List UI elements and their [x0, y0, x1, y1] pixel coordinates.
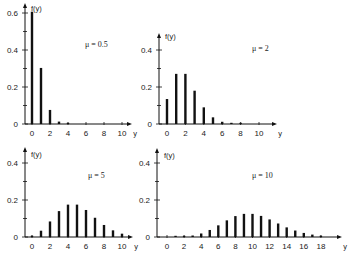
x-tick-label: 8: [233, 242, 238, 251]
y-tick-label: 0.6: [7, 9, 19, 18]
x-tick-label: 0: [30, 129, 35, 138]
y-tick-label: 0.2: [141, 83, 153, 92]
x-tick-label: 10: [255, 129, 264, 138]
y-axis-arrow-icon: [157, 33, 161, 38]
y-axis-arrow-icon: [155, 148, 159, 153]
x-tick-label: 0: [165, 129, 170, 138]
x-tick-label: 2: [48, 129, 53, 138]
y-tick-label: 0.2: [7, 196, 19, 205]
y-axis-label: f(y): [31, 150, 42, 159]
probability-bar: [175, 74, 177, 124]
x-tick-label: 2: [182, 242, 187, 251]
probability-bar: [251, 214, 253, 237]
probability-bar: [49, 110, 51, 124]
y-tick-label: 0.2: [7, 83, 19, 92]
probability-bar: [286, 227, 288, 237]
probability-bar: [40, 68, 42, 124]
x-tick-label: 10: [248, 242, 257, 251]
x-tick-label: 8: [102, 242, 107, 251]
probability-bar: [174, 236, 176, 237]
probability-bar: [166, 99, 168, 124]
x-tick-label: 0: [165, 242, 170, 251]
x-tick-label: 10: [118, 129, 127, 138]
x-tick-label: 8: [102, 129, 107, 138]
x-tick-label: 0: [30, 242, 35, 251]
probability-bar: [200, 233, 202, 237]
y-tick-label: 0.4: [139, 159, 151, 168]
x-tick-label: 10: [118, 242, 127, 251]
x-tick-label: 4: [66, 129, 71, 138]
mu-label: μ = 5: [88, 171, 105, 180]
probability-bar: [277, 223, 279, 237]
x-tick-label: 6: [216, 242, 221, 251]
probability-bar: [94, 218, 96, 237]
x-tick-label: 18: [316, 242, 325, 251]
x-tick-label: 4: [199, 242, 204, 251]
x-tick-label: 6: [84, 129, 89, 138]
probability-bar: [49, 221, 51, 237]
x-tick-label: 2: [183, 129, 188, 138]
probability-bar: [85, 210, 87, 237]
x-tick-label: 8: [238, 129, 243, 138]
probability-bar: [31, 12, 33, 124]
probability-bar: [230, 123, 232, 124]
probability-bar: [221, 122, 223, 124]
y-tick-label: 0.2: [139, 196, 151, 205]
probability-bar: [209, 230, 211, 237]
x-axis-arrow-icon: [128, 235, 133, 239]
y-tick-label: 0.4: [7, 159, 19, 168]
y-tick-label: 0: [148, 120, 153, 129]
mu-label: μ = 0.5: [85, 40, 108, 49]
probability-bar: [40, 231, 42, 237]
probability-bar: [191, 236, 193, 237]
x-axis-label: y: [278, 129, 282, 138]
probability-bar: [320, 236, 322, 237]
x-tick-label: 12: [265, 242, 274, 251]
probability-bar: [58, 122, 60, 124]
y-tick-label: 0: [146, 233, 151, 242]
probability-bar: [183, 236, 185, 237]
probability-bar: [67, 205, 69, 237]
x-axis-arrow-icon: [337, 235, 342, 239]
x-axis-arrow-icon: [272, 122, 277, 126]
x-axis-arrow-icon: [127, 122, 132, 126]
probability-bar: [226, 220, 228, 237]
probability-bar: [294, 231, 296, 237]
probability-bar: [234, 216, 236, 237]
probability-bar: [103, 225, 105, 237]
y-tick-label: 0: [14, 233, 19, 242]
x-axis-label: y: [134, 242, 138, 251]
probability-bar: [239, 123, 241, 124]
x-tick-label: 4: [202, 129, 207, 138]
x-axis-label: y: [343, 242, 347, 251]
probability-bar: [311, 235, 313, 237]
probability-bar: [76, 205, 78, 237]
probability-bar: [260, 216, 262, 237]
probability-bar: [193, 91, 195, 124]
poisson-charts: 00.20.40.60246810yf(y)μ = 0.500.20.40246…: [0, 0, 348, 261]
mu-label: μ = 10: [252, 171, 273, 180]
y-axis-label: f(y): [165, 32, 176, 41]
probability-bar: [243, 214, 245, 237]
y-axis-arrow-icon: [23, 147, 27, 152]
x-tick-label: 16: [299, 242, 308, 251]
x-tick-label: 4: [66, 242, 71, 251]
y-axis-label: f(y): [31, 4, 42, 13]
probability-bar: [184, 74, 186, 124]
x-tick-label: 2: [48, 242, 53, 251]
probability-bar: [303, 233, 305, 237]
y-axis-arrow-icon: [23, 3, 27, 8]
probability-bar: [212, 117, 214, 124]
probability-bar: [268, 219, 270, 237]
y-tick-label: 0.4: [7, 46, 19, 55]
probability-bar: [112, 230, 114, 237]
mu-label: μ = 2: [252, 44, 269, 53]
probability-bar: [31, 236, 33, 237]
x-axis-label: y: [133, 129, 137, 138]
probability-bar: [121, 234, 123, 237]
y-axis-label: f(y): [164, 151, 175, 160]
x-tick-label: 6: [220, 129, 225, 138]
y-tick-label: 0.4: [141, 46, 153, 55]
y-tick-label: 0: [14, 120, 19, 129]
probability-bar: [203, 107, 205, 124]
